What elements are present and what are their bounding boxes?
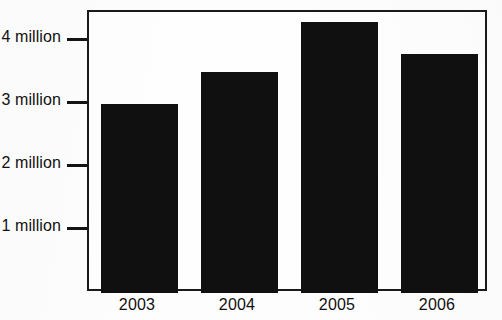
y-tick-label: 1 million — [1, 217, 61, 235]
y-tick-mark — [67, 164, 87, 167]
x-tick-label-2006: 2006 — [387, 296, 487, 314]
bar-chart-screenshot: 1 million2 million3 million4 million 200… — [0, 0, 502, 320]
x-tick-label-2005: 2005 — [287, 296, 387, 314]
y-tick-mark — [67, 101, 87, 104]
bar-2003 — [101, 104, 178, 293]
plot-area — [87, 10, 487, 291]
bar-2004 — [201, 72, 278, 293]
y-tick-label: 2 million — [1, 154, 61, 172]
y-tick-mark — [67, 227, 87, 230]
y-tick-label: 3 million — [1, 91, 61, 109]
x-tick-label-2003: 2003 — [87, 296, 187, 314]
bar-2006 — [401, 54, 478, 293]
x-tick-label-2004: 2004 — [187, 296, 287, 314]
y-tick-label: 4 million — [1, 28, 61, 46]
bar-2005 — [301, 22, 378, 293]
y-tick-mark — [67, 38, 87, 41]
